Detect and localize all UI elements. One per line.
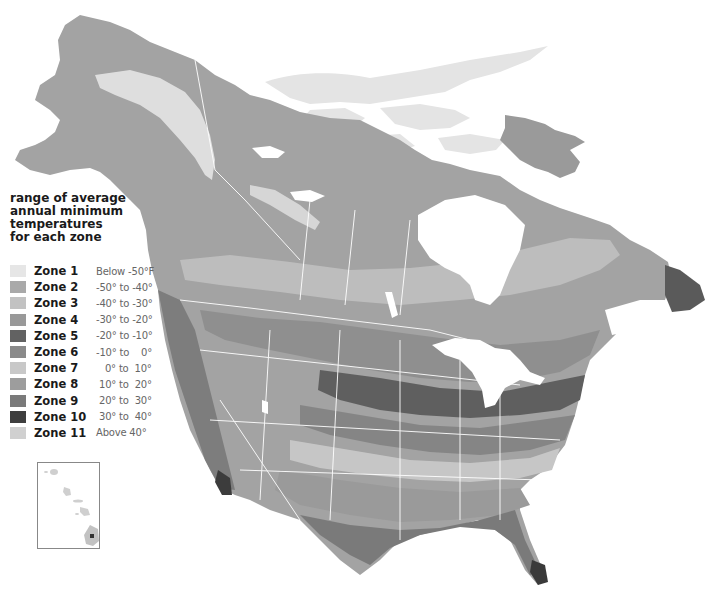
hawaii-inset <box>37 462 100 549</box>
zone-3-swatch <box>10 297 26 309</box>
legend-row-zone-6: Zone 6 -10° to 0° <box>10 344 185 360</box>
zone-legend: Zone 1 Below -50°F Zone 2 -50° to -40° Z… <box>10 263 185 441</box>
legend-title: range of average annual minimum temperat… <box>10 192 180 244</box>
zone-5-swatch <box>10 330 26 342</box>
newfoundland <box>665 265 705 312</box>
zone-range: 0° to 10° <box>96 363 152 374</box>
zone-range: -10° to 0° <box>96 347 152 358</box>
zone-range: 30° to 40° <box>96 411 152 422</box>
zone-10-swatch <box>10 411 26 423</box>
zone-label: Zone 9 <box>34 394 96 408</box>
legend-row-zone-5: Zone 5 -20° to -10° <box>10 328 185 344</box>
zone-label: Zone 10 <box>34 410 96 424</box>
zone-range: -40° to -30° <box>96 298 153 309</box>
zone-label: Zone 2 <box>34 280 96 294</box>
zone-6-swatch <box>10 346 26 358</box>
legend-row-zone-10: Zone 10 30° to 40° <box>10 409 185 425</box>
zone-range: Below -50°F <box>96 266 154 277</box>
zone-label: Zone 7 <box>34 361 96 375</box>
zone-range: -30° to -20° <box>96 314 153 325</box>
zone-label: Zone 8 <box>34 377 96 391</box>
zone-9-swatch <box>10 395 26 407</box>
zone-label: Zone 11 <box>34 426 96 440</box>
zone-4-swatch <box>10 314 26 326</box>
zone-label: Zone 3 <box>34 296 96 310</box>
zone-2-swatch <box>10 281 26 293</box>
zone-label: Zone 6 <box>34 345 96 359</box>
zone-label: Zone 1 <box>34 264 96 278</box>
baffin-island <box>500 115 585 178</box>
zone-8-swatch <box>10 378 26 390</box>
legend-row-zone-11: Zone 11 Above 40° <box>10 425 185 441</box>
zone-range: 20° to 30° <box>96 395 152 406</box>
zone-range: 10° to 20° <box>96 379 152 390</box>
zone-label: Zone 5 <box>34 329 96 343</box>
zone-1-swatch <box>10 265 26 277</box>
zone-range: -20° to -10° <box>96 330 153 341</box>
legend-row-zone-1: Zone 1 Below -50°F <box>10 263 185 279</box>
legend-title-line: for each zone <box>10 231 180 244</box>
zone-label: Zone 4 <box>34 313 96 327</box>
legend-row-zone-7: Zone 7 0° to 10° <box>10 360 185 376</box>
legend-row-zone-8: Zone 8 10° to 20° <box>10 376 185 392</box>
zone-10-south-florida <box>530 560 548 585</box>
zone-range: -50° to -40° <box>96 282 153 293</box>
zone-range: Above 40° <box>96 427 146 438</box>
hawaii-islands <box>38 463 99 548</box>
legend-row-zone-3: Zone 3 -40° to -30° <box>10 295 185 311</box>
legend-row-zone-2: Zone 2 -50° to -40° <box>10 279 185 295</box>
zone-11-swatch <box>10 427 26 439</box>
legend-row-zone-4: Zone 4 -30° to -20° <box>10 312 185 328</box>
zone-7-swatch <box>10 362 26 374</box>
legend-row-zone-9: Zone 9 20° to 30° <box>10 393 185 409</box>
